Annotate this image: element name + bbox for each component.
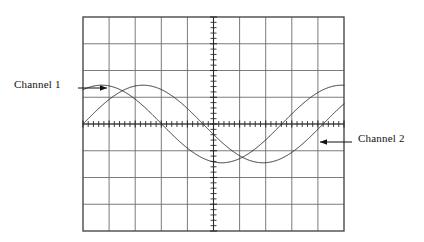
figure-background xyxy=(0,0,424,242)
oscilloscope-figure xyxy=(0,0,424,242)
channel-1-label: Channel 1 xyxy=(14,78,61,90)
channel-2-label: Channel 2 xyxy=(358,132,405,144)
